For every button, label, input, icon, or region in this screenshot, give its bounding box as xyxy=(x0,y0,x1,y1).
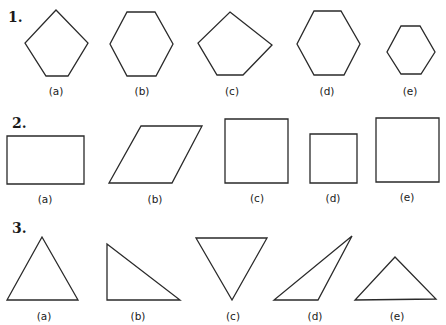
irregular-pentagon-shape xyxy=(198,12,272,75)
hexagon-shape xyxy=(110,12,173,76)
parallelogram-shape xyxy=(109,126,202,183)
figure-2e: (e) xyxy=(376,118,439,203)
figure-3a: (a) xyxy=(7,237,78,322)
equilateral-triangle-shape xyxy=(7,237,78,300)
figure-2a: (a) xyxy=(7,136,84,205)
obtuse-triangle-shape xyxy=(274,236,352,300)
row-2: 2. (a) (b) (c) (d) (e) xyxy=(7,115,439,205)
figure-2b: (b) xyxy=(109,126,202,205)
right-triangle-shape xyxy=(107,244,180,300)
row-3: 3. (a) (b) (c) (d) (e) xyxy=(7,220,436,322)
isosceles-triangle-shape xyxy=(355,257,436,300)
row-number: 3. xyxy=(12,220,27,236)
figure-label: (c) xyxy=(226,310,240,322)
figure-label: (b) xyxy=(131,310,146,322)
figure-1d: (d) xyxy=(297,11,360,97)
square-shape xyxy=(376,118,439,182)
figure-label: (e) xyxy=(403,85,418,97)
row-number: 1. xyxy=(8,9,23,25)
figure-label: (a) xyxy=(37,310,52,322)
figure-label: (d) xyxy=(326,192,341,204)
figure-1c: (c) xyxy=(198,12,272,97)
figure-3b: (b) xyxy=(107,244,180,322)
figure-1b: (b) xyxy=(110,12,173,97)
figure-label: (d) xyxy=(308,310,323,322)
small-square-shape xyxy=(310,134,357,183)
pentagon-shape xyxy=(25,10,88,76)
figure-label: (c) xyxy=(225,85,239,97)
figure-label: (a) xyxy=(38,193,53,205)
figure-label: (a) xyxy=(49,85,64,97)
figure-label: (c) xyxy=(250,192,264,204)
figure-3c: (c) xyxy=(196,238,267,322)
figure-2c: (c) xyxy=(225,119,288,204)
figure-label: (d) xyxy=(320,85,335,97)
figure-label: (b) xyxy=(148,193,163,205)
rectangle-shape xyxy=(7,136,84,184)
figure-label: (e) xyxy=(400,191,415,203)
square-shape xyxy=(225,119,288,183)
figure-label: (b) xyxy=(135,85,150,97)
small-hexagon-shape xyxy=(387,26,435,74)
shapes-diagram: 1. (a) (b) (c) (d) (e) 2. (a) xyxy=(0,0,446,325)
hexagon-shape xyxy=(297,11,360,75)
inverted-triangle-shape xyxy=(196,238,267,300)
figure-3d: (d) xyxy=(274,236,352,322)
figure-2d: (d) xyxy=(310,134,357,204)
figure-1a: (a) xyxy=(25,10,88,97)
figure-label: (e) xyxy=(390,310,405,322)
figure-3e: (e) xyxy=(355,257,436,322)
figure-1e: (e) xyxy=(387,26,435,97)
row-1: 1. (a) (b) (c) (d) (e) xyxy=(8,9,435,97)
row-number: 2. xyxy=(12,115,27,131)
